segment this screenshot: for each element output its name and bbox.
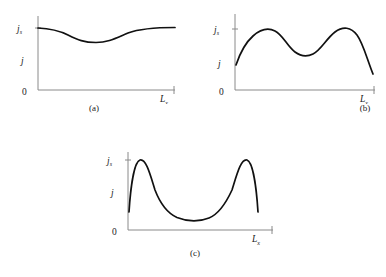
plot-a-label-js: js: [15, 24, 23, 36]
plot-a-label-js-sub: s: [20, 29, 23, 35]
plot-a-label-lx: Lx: [159, 94, 168, 104]
plot-b-label-js-sub: s: [217, 30, 220, 36]
plot-a-label-lx-sub: x: [164, 100, 168, 105]
plot-b-curve: [236, 28, 373, 74]
plot-b-label-j: j: [216, 59, 221, 69]
plot-c-label-js: js: [105, 156, 113, 168]
plot-c-label-origin: 0: [112, 227, 117, 237]
plot-b-label-js: js: [212, 25, 220, 37]
plot-panel-b: js j 0 Lx: [195, 4, 386, 104]
plot-b-svg: js j 0 Lx: [195, 4, 386, 104]
plot-c-label-j: j: [109, 188, 114, 198]
plot-b-label-origin: 0: [219, 87, 224, 97]
plot-c-label-lx: Lx: [251, 234, 260, 245]
caption-b: (b): [345, 103, 385, 113]
plot-panel-c: js j 0 Lx: [95, 140, 290, 245]
figure-container: js j 0 Lx (a) js j: [0, 0, 386, 277]
plot-c-label-js-sub: s: [110, 161, 113, 167]
plot-panel-a: js j 0 Lx: [0, 4, 193, 104]
plot-c-svg: js j 0 Lx: [95, 140, 290, 245]
plot-c-curve: [129, 160, 258, 221]
caption-a: (a): [74, 103, 114, 113]
caption-c: (c): [175, 248, 215, 258]
plot-a-curve: [38, 28, 175, 43]
plot-a-label-origin: 0: [22, 87, 27, 97]
plot-c-label-lx-sub: x: [256, 240, 260, 246]
plot-a-label-j: j: [19, 56, 24, 66]
plot-a-svg: js j 0 Lx: [0, 4, 193, 104]
